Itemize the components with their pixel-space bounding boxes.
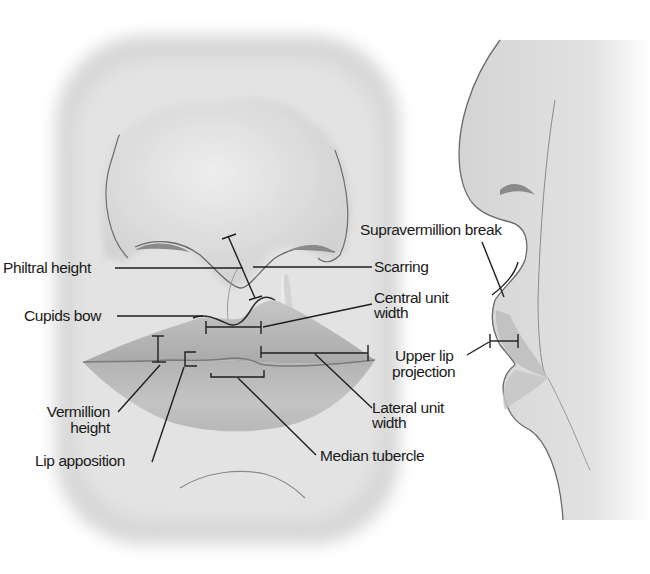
label-vermillion-height-line2: height bbox=[36, 420, 110, 435]
upper-lip-projection-leader bbox=[467, 342, 489, 355]
label-cupids-bow: Cupids bow bbox=[24, 308, 101, 323]
label-vermillion-height-line1: Vermillion bbox=[36, 404, 110, 419]
label-lip-apposition: Lip apposition bbox=[35, 453, 125, 468]
label-supravermillion-break: Supravermillion break bbox=[360, 222, 502, 237]
lateral-profile-view bbox=[459, 40, 650, 520]
label-central-unit-width-line2: width bbox=[374, 305, 408, 320]
profile-skin bbox=[459, 40, 650, 520]
illustration bbox=[0, 0, 650, 574]
label-upper-lip-projection-line1: Upper lip bbox=[395, 348, 453, 363]
label-lateral-unit-width-line1: Lateral unit bbox=[372, 400, 444, 415]
label-philtral-height: Philtral height bbox=[3, 260, 91, 275]
label-median-tubercle: Median tubercle bbox=[320, 448, 424, 463]
supravermillion-break-leader bbox=[482, 242, 504, 297]
label-upper-lip-projection-line2: projection bbox=[392, 364, 455, 379]
label-lateral-unit-width-line2: width bbox=[372, 415, 406, 430]
lip-anatomy-diagram: Philtral height Cupids bow Vermillion he… bbox=[0, 0, 650, 574]
label-scarring: Scarring bbox=[374, 259, 429, 274]
label-central-unit-width-line1: Central unit bbox=[374, 290, 448, 305]
